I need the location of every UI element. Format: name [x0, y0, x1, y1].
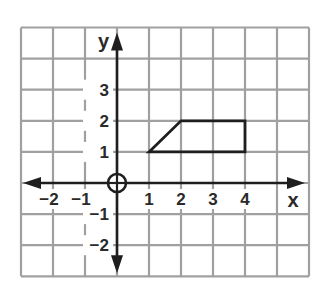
x-tick-label: 3: [208, 190, 217, 209]
x-axis-right-arrow-icon: [287, 177, 305, 189]
plotted-shapes: [149, 121, 245, 152]
y-tick-label: −2: [90, 236, 109, 255]
y-axis-up-arrow-icon: [111, 33, 123, 51]
y-tick-label: 1: [100, 143, 109, 162]
x-tick-label: −1: [71, 190, 90, 209]
trapezoid-shape: [149, 121, 245, 152]
x-tick-label: 2: [176, 190, 185, 209]
coordinate-plane: −2−11234321−1−2xy: [0, 0, 332, 297]
y-tick-label: 2: [100, 112, 109, 131]
x-axis-label: x: [287, 189, 298, 211]
y-tick-label: −1: [90, 205, 109, 224]
axis-labels: −2−11234321−1−2xy: [39, 30, 298, 255]
x-tick-label: 1: [144, 190, 153, 209]
x-tick-label: 4: [240, 190, 250, 209]
y-tick-label: 3: [100, 81, 109, 100]
y-axis-down-arrow-icon: [111, 255, 123, 273]
y-axis-label: y: [98, 30, 110, 52]
x-axis-left-arrow-icon: [23, 177, 41, 189]
x-tick-label: −2: [39, 190, 58, 209]
